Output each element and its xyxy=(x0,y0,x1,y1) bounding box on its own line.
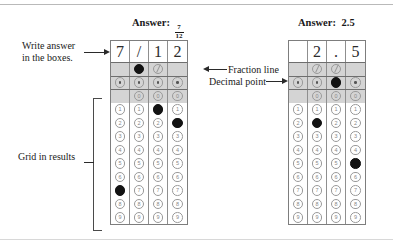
digit-bubble[interactable]: 2 xyxy=(331,118,342,129)
digit-bubble-cell[interactable]: 8 xyxy=(130,197,148,211)
written-answer-cell[interactable]: 2 xyxy=(168,41,187,62)
digit-bubble-cell[interactable]: 1 xyxy=(346,103,365,117)
digit-bubble-cell[interactable]: 6 xyxy=(308,170,326,184)
grid-column[interactable]: 0123456789 xyxy=(289,41,308,224)
digit-bubble[interactable]: 6 xyxy=(350,172,361,183)
digit-bubble-cell[interactable]: 3 xyxy=(130,130,148,144)
digit-bubble[interactable]: 2 xyxy=(350,118,361,129)
digit-bubble-cell[interactable]: 0 xyxy=(289,89,307,103)
fraction-line-bubble-cell[interactable] xyxy=(149,62,167,76)
fraction-line-bubble-cell[interactable] xyxy=(168,62,187,76)
fraction-line-bubble[interactable] xyxy=(134,64,145,75)
digit-bubble[interactable]: 1 xyxy=(134,104,145,115)
digit-bubble-cell[interactable]: 8 xyxy=(327,197,345,211)
digit-bubble-cell[interactable]: 7 xyxy=(346,184,365,198)
written-answer-cell[interactable] xyxy=(289,41,307,62)
digit-bubble[interactable]: 0 xyxy=(331,91,342,102)
digit-bubble[interactable]: 2 xyxy=(115,118,126,129)
digit-bubble[interactable]: 1 xyxy=(153,104,164,115)
fraction-line-bubble-cell[interactable] xyxy=(130,62,148,76)
digit-bubble[interactable]: 8 xyxy=(115,199,126,210)
digit-bubble[interactable]: 1 xyxy=(350,104,361,115)
digit-bubble-cell[interactable]: 6 xyxy=(149,170,167,184)
digit-bubble[interactable]: 3 xyxy=(153,131,164,142)
written-answer-cell[interactable]: 2 xyxy=(308,41,326,62)
answer-grid-left[interactable]: 70123456789/0123456789101234567892012345… xyxy=(110,40,188,225)
digit-bubble-cell[interactable]: 0 xyxy=(308,89,326,103)
fraction-line-bubble[interactable] xyxy=(312,64,323,75)
answer-grid-right[interactable]: 012345678920123456789.012345678950123456… xyxy=(288,40,366,225)
digit-bubble[interactable]: 4 xyxy=(153,145,164,156)
digit-bubble-cell[interactable]: 3 xyxy=(149,130,167,144)
digit-bubble[interactable]: 6 xyxy=(172,172,183,183)
fraction-line-bubble[interactable] xyxy=(331,64,342,75)
digit-bubble[interactable]: 9 xyxy=(172,212,183,223)
digit-bubble[interactable]: 4 xyxy=(331,145,342,156)
digit-bubble[interactable]: 0 xyxy=(172,91,183,102)
digit-bubble-cell[interactable]: 2 xyxy=(130,116,148,130)
digit-bubble-cell[interactable]: 3 xyxy=(111,130,129,144)
digit-bubble[interactable]: 0 xyxy=(153,91,164,102)
digit-bubble-cell[interactable]: 7 xyxy=(111,184,129,198)
digit-bubble-cell[interactable]: 2 xyxy=(346,116,365,130)
digit-bubble-cell[interactable]: 8 xyxy=(111,197,129,211)
digit-bubble[interactable]: 2 xyxy=(153,118,164,129)
digit-bubble[interactable]: 7 xyxy=(172,185,183,196)
digit-bubble[interactable]: 7 xyxy=(153,185,164,196)
fraction-line-bubble-cell[interactable] xyxy=(346,62,365,76)
digit-bubble[interactable]: 5 xyxy=(350,158,361,169)
digit-bubble-cell[interactable]: 4 xyxy=(168,143,187,157)
digit-bubble[interactable]: 5 xyxy=(331,158,342,169)
digit-bubble-cell[interactable]: 4 xyxy=(308,143,326,157)
digit-bubble[interactable]: 6 xyxy=(312,172,323,183)
digit-bubble-cell[interactable]: 0 xyxy=(346,89,365,103)
digit-bubble[interactable]: 0 xyxy=(350,91,361,102)
digit-bubble[interactable]: 8 xyxy=(153,199,164,210)
digit-bubble[interactable]: 9 xyxy=(312,212,323,223)
written-answer-cell[interactable]: 5 xyxy=(346,41,365,62)
digit-bubble-cell[interactable]: 9 xyxy=(130,211,148,225)
digit-bubble[interactable]: 3 xyxy=(331,131,342,142)
digit-bubble[interactable]: 4 xyxy=(172,145,183,156)
digit-bubble-cell[interactable]: 8 xyxy=(308,197,326,211)
digit-bubble[interactable]: 9 xyxy=(350,212,361,223)
digit-bubble-cell[interactable]: 9 xyxy=(327,211,345,225)
digit-bubble-cell[interactable]: 6 xyxy=(289,170,307,184)
digit-bubble-cell[interactable]: 2 xyxy=(308,116,326,130)
digit-bubble-cell[interactable]: 5 xyxy=(308,157,326,171)
digit-bubble-cell[interactable]: 2 xyxy=(289,116,307,130)
digit-bubble-cell[interactable]: 2 xyxy=(111,116,129,130)
digit-bubble[interactable]: 9 xyxy=(293,212,304,223)
fraction-line-bubble-cell[interactable] xyxy=(111,62,129,76)
digit-bubble[interactable]: 7 xyxy=(350,185,361,196)
digit-bubble[interactable]: 5 xyxy=(293,158,304,169)
grid-column[interactable]: /0123456789 xyxy=(130,41,149,224)
digit-bubble-cell[interactable]: 7 xyxy=(289,184,307,198)
decimal-point-bubble-cell[interactable] xyxy=(130,76,148,90)
digit-bubble[interactable]: 1 xyxy=(293,104,304,115)
digit-bubble[interactable]: 8 xyxy=(350,199,361,210)
digit-bubble[interactable]: 4 xyxy=(115,145,126,156)
digit-bubble-cell[interactable]: 0 xyxy=(111,89,129,103)
digit-bubble[interactable]: 3 xyxy=(312,131,323,142)
digit-bubble-cell[interactable]: 7 xyxy=(149,184,167,198)
digit-bubble-cell[interactable]: 5 xyxy=(289,157,307,171)
digit-bubble-cell[interactable]: 9 xyxy=(308,211,326,225)
fraction-line-bubble-cell[interactable] xyxy=(289,62,307,76)
decimal-point-bubble-cell[interactable] xyxy=(308,76,326,90)
digit-bubble-cell[interactable]: 0 xyxy=(327,89,345,103)
digit-bubble-cell[interactable]: 1 xyxy=(308,103,326,117)
digit-bubble-cell[interactable]: 3 xyxy=(308,130,326,144)
written-answer-cell[interactable]: 7 xyxy=(111,41,129,62)
digit-bubble-cell[interactable]: 3 xyxy=(168,130,187,144)
digit-bubble-cell[interactable]: 4 xyxy=(149,143,167,157)
decimal-point-bubble[interactable] xyxy=(331,77,342,88)
digit-bubble-cell[interactable]: 4 xyxy=(346,143,365,157)
digit-bubble-cell[interactable]: 1 xyxy=(168,103,187,117)
digit-bubble-cell[interactable]: 3 xyxy=(289,130,307,144)
digit-bubble[interactable]: 0 xyxy=(312,91,323,102)
digit-bubble[interactable]: 2 xyxy=(293,118,304,129)
digit-bubble[interactable]: 9 xyxy=(153,212,164,223)
digit-bubble-cell[interactable]: 4 xyxy=(289,143,307,157)
grid-column[interactable]: .0123456789 xyxy=(327,41,346,224)
